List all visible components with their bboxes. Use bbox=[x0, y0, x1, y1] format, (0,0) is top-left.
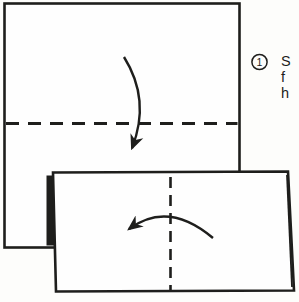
step-number: 1 bbox=[257, 56, 263, 68]
folded-rectangle-paper bbox=[53, 172, 294, 292]
origami-diagram: 1 S f h bbox=[0, 0, 299, 302]
instruction-line-3: h bbox=[281, 85, 289, 101]
origami-step-figure: 1 S f h bbox=[0, 0, 299, 302]
instruction-line-1: S bbox=[281, 53, 291, 69]
